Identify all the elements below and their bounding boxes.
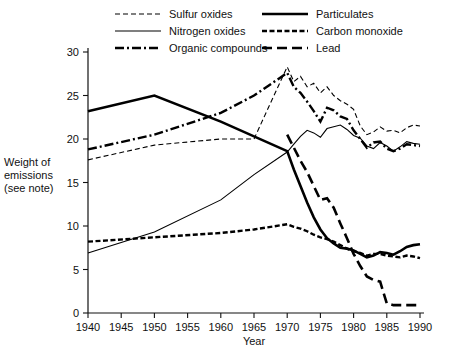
legend-label-organic-compounds: Organic compounds bbox=[169, 42, 268, 54]
x-tick-label: 1955 bbox=[175, 321, 199, 333]
series-line-particulates bbox=[88, 96, 420, 258]
y-tick-label: 15 bbox=[67, 177, 79, 189]
x-tick-label: 1990 bbox=[408, 321, 432, 333]
legend-label-particulates: Particulates bbox=[316, 8, 374, 20]
x-tick-label: 1945 bbox=[109, 321, 133, 333]
x-tick-label: 1960 bbox=[209, 321, 233, 333]
legend-label-sulfur-oxides: Sulfur oxides bbox=[169, 8, 233, 20]
chart-series bbox=[88, 67, 420, 305]
y-tick-label: 20 bbox=[67, 133, 79, 145]
x-tick-label: 1965 bbox=[242, 321, 266, 333]
chart-canvas: Sulfur oxidesNitrogen oxidesOrganic comp… bbox=[0, 0, 457, 351]
legend-label-carbon-monoxide: Carbon monoxide bbox=[316, 25, 403, 37]
x-tick-label: 1940 bbox=[76, 321, 100, 333]
x-axis-title: Year bbox=[243, 335, 266, 347]
x-axis-ticks: 1940194519501955196019651970197519801985… bbox=[76, 313, 432, 333]
y-axis-title-line-2: emissions bbox=[4, 169, 53, 181]
x-tick-label: 1950 bbox=[142, 321, 166, 333]
series-line-organic-compounds bbox=[88, 73, 420, 151]
x-tick-label: 1980 bbox=[341, 321, 365, 333]
x-tick-label: 1970 bbox=[275, 321, 299, 333]
chart-legend: Sulfur oxidesNitrogen oxidesOrganic comp… bbox=[115, 8, 403, 54]
emissions-line-chart: Sulfur oxidesNitrogen oxidesOrganic comp… bbox=[0, 0, 457, 351]
y-tick-label: 0 bbox=[73, 307, 79, 319]
series-line-lead bbox=[287, 135, 420, 306]
y-tick-label: 25 bbox=[67, 90, 79, 102]
y-tick-label: 30 bbox=[67, 46, 79, 58]
x-tick-label: 1985 bbox=[375, 321, 399, 333]
y-axis-title-line-1: Weight of bbox=[4, 156, 51, 168]
x-tick-label: 1975 bbox=[308, 321, 332, 333]
legend-label-nitrogen-oxides: Nitrogen oxides bbox=[169, 25, 246, 37]
y-tick-label: 5 bbox=[73, 264, 79, 276]
chart-axes: 051015202530 194019451950195519601965197… bbox=[67, 46, 432, 333]
legend-label-lead: Lead bbox=[316, 42, 340, 54]
series-line-carbon-monoxide bbox=[88, 224, 420, 258]
y-axis-title-line-3: (see note) bbox=[4, 182, 54, 194]
chart-axis-titles: Weight of emissions (see note) Year bbox=[4, 156, 265, 347]
y-tick-label: 10 bbox=[67, 220, 79, 232]
y-axis-ticks: 051015202530 bbox=[67, 46, 88, 319]
